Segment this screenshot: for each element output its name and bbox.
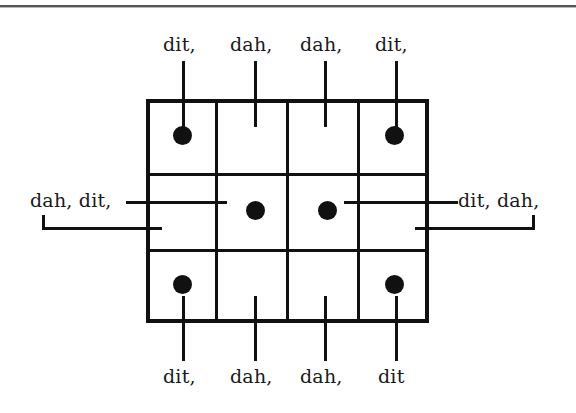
grid-dot-r3c4 <box>385 275 404 294</box>
page-top-rule-shadow <box>0 7 576 8</box>
right-bracket-stub <box>532 215 535 229</box>
bottom-label-4: dit <box>378 365 404 387</box>
top-tick-4 <box>395 61 398 127</box>
grid-dot-r3c1 <box>173 275 192 294</box>
left-leader-upper <box>126 201 227 204</box>
bottom-label-3: dah, <box>300 365 343 387</box>
figure-canvas: dit, dah, dah, dit, dah, dit, dit, dah, … <box>0 0 576 413</box>
top-label-4: dit, <box>375 33 408 55</box>
grid-vline-3 <box>357 99 360 323</box>
top-tick-3 <box>324 61 327 127</box>
bottom-tick-2 <box>254 296 257 361</box>
top-label-3: dah, <box>300 33 343 55</box>
bottom-label-2: dah, <box>230 365 273 387</box>
bottom-label-1: dit, <box>163 365 196 387</box>
grid-hline-2 <box>146 249 429 252</box>
bottom-tick-3 <box>324 296 327 361</box>
grid-dot-r1c1 <box>173 126 192 145</box>
top-label-1: dit, <box>163 33 196 55</box>
left-label: dah, dit, <box>30 189 112 211</box>
grid-dot-r2c2 <box>246 201 265 220</box>
grid-dot-r1c4 <box>385 126 404 145</box>
top-label-2: dah, <box>230 33 273 55</box>
grid-vline-1 <box>215 99 218 323</box>
top-tick-2 <box>254 61 257 127</box>
bottom-tick-1 <box>182 296 185 361</box>
left-leader-lower <box>42 227 162 230</box>
morse-grid <box>146 99 429 323</box>
right-label: dit, dah, <box>458 189 540 211</box>
bottom-tick-4 <box>395 296 398 361</box>
grid-dot-r2c3 <box>318 201 337 220</box>
right-leader-lower <box>415 227 535 230</box>
grid-vline-2 <box>286 99 289 323</box>
grid-hline-1 <box>146 173 429 176</box>
right-leader-upper <box>344 201 458 204</box>
top-tick-1 <box>182 61 185 127</box>
